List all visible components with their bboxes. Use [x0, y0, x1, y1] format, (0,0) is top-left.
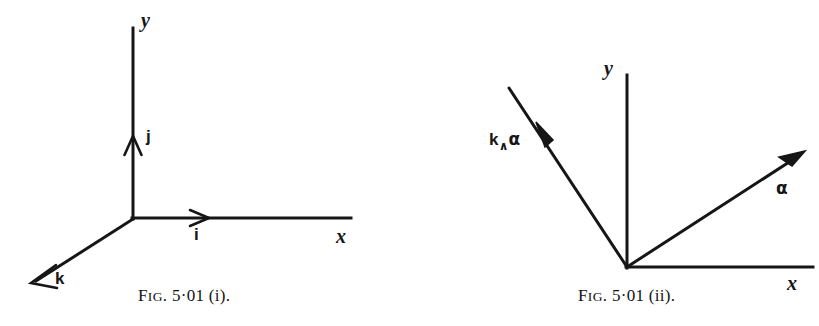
caption-fig-ii-smallcaps: IG — [588, 289, 603, 304]
caption-fig-ii: FIG. 5·01 (ii). — [578, 286, 675, 306]
fig-i-x-axis-label: x — [336, 226, 346, 246]
fig-i-z-axis-line — [36, 219, 133, 281]
vector-diagrams-svg — [0, 0, 819, 326]
caption-fig-i-rest: . 5·01 (i). — [163, 286, 231, 305]
fig-ii-vector-alpha-arrowhead — [779, 151, 805, 166]
fig-i-unit-vector-k-label: k — [55, 270, 65, 287]
fig-i-y-axis-label: y — [141, 10, 150, 30]
k-symbol: k — [489, 130, 499, 149]
fig-ii-vector-alpha-label: α — [776, 180, 788, 197]
figure-ii-graphics — [509, 75, 813, 268]
fig-ii-vector-alpha-line — [627, 155, 800, 267]
fig-ii-x-axis-label: x — [787, 273, 797, 293]
fig-ii-vector-k-wedge-alpha-label: k∧α — [489, 131, 520, 148]
alpha-symbol: α — [508, 129, 520, 149]
fig-i-unit-vector-j-label: j — [146, 128, 151, 145]
wedge-operator-symbol: ∧ — [499, 139, 509, 153]
fig-i-unit-vector-i-label: i — [194, 226, 199, 243]
fig-ii-y-axis-label: y — [604, 58, 613, 78]
caption-fig-i-prefix: F — [138, 286, 148, 305]
caption-fig-ii-prefix: F — [578, 286, 588, 305]
caption-fig-i-smallcaps: IG — [148, 289, 163, 304]
figure-i-graphics — [31, 28, 351, 288]
figure-plate: y x j i k y x α k∧α FIG. 5·01 (i). FIG. … — [0, 0, 819, 326]
caption-fig-i: FIG. 5·01 (i). — [138, 286, 230, 306]
fig-ii-vector-kwedgealpha-line — [509, 88, 627, 267]
caption-fig-ii-rest: . 5·01 (ii). — [603, 286, 676, 305]
